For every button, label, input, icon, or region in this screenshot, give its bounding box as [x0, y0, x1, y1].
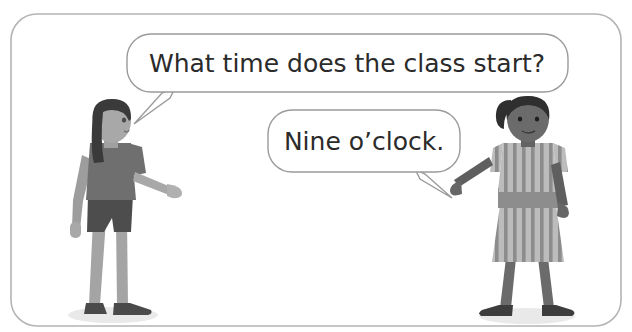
speech-bubble-question-text: What time does the class start? [149, 49, 545, 78]
speech-bubbles-layer: What time does the class start? Nine o’c… [0, 0, 632, 332]
speech-bubble-answer-text: Nine o’clock. [284, 127, 444, 156]
speech-bubble-question-tail [134, 88, 175, 124]
speech-bubble-answer[interactable]: Nine o’clock. [268, 110, 460, 198]
speech-bubble-answer-tail [415, 169, 452, 198]
illustration-scene: What time does the class start? Nine o’c… [0, 0, 632, 332]
